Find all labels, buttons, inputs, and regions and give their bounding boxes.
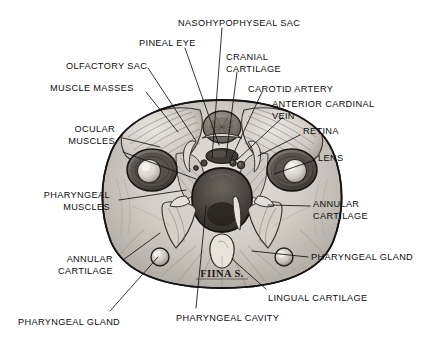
label-line: PINEAL EYE bbox=[139, 38, 196, 50]
label-line: NASOHYPOPHYSEAL SAC bbox=[178, 18, 300, 30]
label-carotid-artery: CAROTID ARTERY bbox=[248, 84, 333, 96]
pharyngeal-cavity bbox=[192, 168, 252, 232]
label-line: VEIN bbox=[272, 111, 374, 123]
carotid-artery bbox=[230, 160, 237, 167]
label-cranial-cartilage: CRANIALCARTILAGE bbox=[226, 52, 281, 75]
label-line: MUSCLES bbox=[44, 202, 110, 214]
label-line: OCULAR bbox=[68, 124, 115, 136]
label-pharyngeal-cavity: PHARYNGEAL CAVITY bbox=[176, 313, 279, 325]
label-line: ANNULAR bbox=[313, 199, 368, 211]
label-pharyngeal-muscles: PHARYNGEALMUSCLES bbox=[44, 190, 110, 213]
label-line: OLFACTORY SAC bbox=[66, 61, 147, 73]
label-pharyngeal-gland-left: PHARYNGEAL GLAND bbox=[18, 317, 120, 329]
label-line: LINGUAL CARTILAGE bbox=[268, 293, 367, 305]
label-olfactory-sac: OLFACTORY SAC bbox=[66, 61, 147, 73]
lens-left bbox=[138, 160, 161, 183]
label-ocular-muscles: OCULARMUSCLES bbox=[68, 124, 115, 147]
pharyngeal-gland-right bbox=[275, 248, 293, 266]
label-line: LENS bbox=[318, 153, 343, 165]
artist-signature: FIINA S. bbox=[196, 268, 248, 279]
lamprey-cross-section-drawing: FIINA S. bbox=[0, 0, 445, 340]
label-nasohypophyseal-sac: NASOHYPOPHYSEAL SAC bbox=[178, 18, 300, 30]
label-lingual-cartilage: LINGUAL CARTILAGE bbox=[268, 293, 367, 305]
label-line: CARTILAGE bbox=[226, 64, 281, 76]
label-line: CAROTID ARTERY bbox=[248, 84, 333, 96]
label-line: MUSCLE MASSES bbox=[50, 83, 134, 95]
label-line: CRANIAL bbox=[226, 52, 281, 64]
anatomy-figure: FIINA S. NASOHYPOPHYSEAL SACPINEAL EYECR… bbox=[0, 0, 445, 340]
label-line: PHARYNGEAL bbox=[44, 190, 110, 202]
label-lens: LENS bbox=[318, 153, 343, 165]
label-line: ANTERIOR CARDINAL bbox=[272, 99, 374, 111]
label-line: PHARYNGEAL GLAND bbox=[18, 317, 120, 329]
label-line: CARTILAGE bbox=[58, 266, 113, 278]
label-line: CARTILAGE bbox=[313, 211, 368, 223]
eye-left bbox=[127, 149, 177, 191]
label-muscle-masses: MUSCLE MASSES bbox=[50, 83, 134, 95]
label-annular-cartilage-left: ANNULARCARTILAGE bbox=[58, 254, 113, 277]
label-pharyngeal-gland-right: PHARYNGEAL GLAND bbox=[311, 252, 413, 264]
label-pineal-eye: PINEAL EYE bbox=[139, 38, 196, 50]
label-line: MUSCLES bbox=[68, 136, 115, 148]
label-retina: RETINA bbox=[303, 126, 339, 138]
svg-text:FIINA S.: FIINA S. bbox=[200, 268, 243, 279]
lens-right bbox=[284, 160, 307, 183]
eye-right bbox=[267, 149, 317, 191]
anterior-cardinal-vein bbox=[237, 161, 245, 169]
label-line: PHARYNGEAL GLAND bbox=[311, 252, 413, 264]
label-line: ANNULAR bbox=[58, 254, 113, 266]
label-anterior-cardinal-vein: ANTERIOR CARDINALVEIN bbox=[272, 99, 374, 122]
label-annular-cartilage-right: ANNULARCARTILAGE bbox=[313, 199, 368, 222]
label-line: RETINA bbox=[303, 126, 339, 138]
label-line: PHARYNGEAL CAVITY bbox=[176, 313, 279, 325]
pharyngeal-gland-left bbox=[151, 248, 169, 266]
